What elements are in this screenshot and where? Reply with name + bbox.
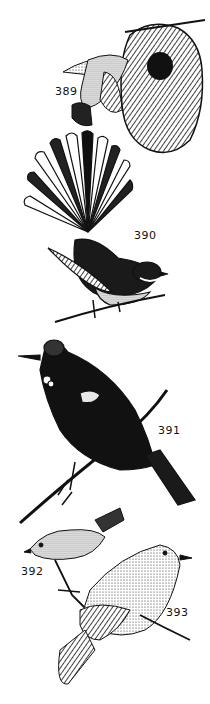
figure-label-391: 391 xyxy=(158,424,181,437)
figure-label-392: 392 xyxy=(21,565,44,578)
illustration-plate: 389 390 391 392 393 xyxy=(0,0,210,704)
figure-label-390: 390 xyxy=(134,229,157,242)
figure-label-389: 389 xyxy=(55,85,78,98)
figure-label-393: 393 xyxy=(166,606,189,619)
bird-illustrations xyxy=(0,0,210,704)
figure-390-fantail xyxy=(24,131,168,322)
figure-389-nest xyxy=(121,20,205,152)
